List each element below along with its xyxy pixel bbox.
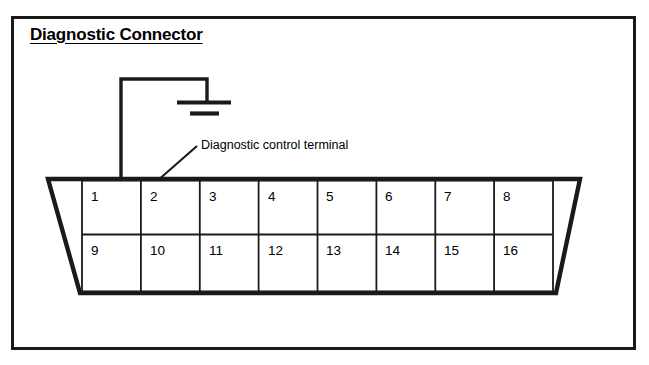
- pin-label-7: 7: [444, 190, 452, 204]
- pin-label-15: 15: [444, 244, 459, 258]
- pin-label-12: 12: [268, 244, 283, 258]
- pin-label-9: 9: [91, 244, 99, 258]
- pin-label-11: 11: [209, 244, 223, 258]
- pin-label-16: 16: [503, 244, 518, 258]
- pin-label-5: 5: [326, 190, 334, 204]
- pin-label-2: 2: [150, 190, 158, 204]
- pin-label-4: 4: [268, 190, 276, 204]
- connector-body: [48, 179, 580, 293]
- diagram-page: Diagnostic Connector Diagnostic control …: [0, 0, 649, 365]
- pin-label-3: 3: [209, 190, 217, 204]
- pin-label-6: 6: [385, 190, 393, 204]
- pin-label-8: 8: [503, 190, 511, 204]
- pin-label-1: 1: [91, 190, 99, 204]
- connector-artwork: [0, 0, 649, 365]
- pin-label-10: 10: [150, 244, 165, 258]
- pin-label-14: 14: [385, 244, 400, 258]
- pin-label-13: 13: [326, 244, 341, 258]
